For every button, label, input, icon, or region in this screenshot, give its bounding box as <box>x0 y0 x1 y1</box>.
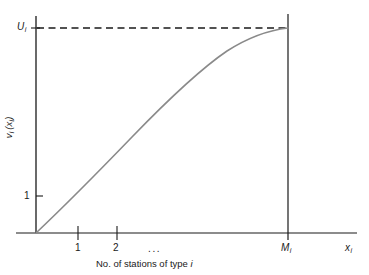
x-axis-caption-subject: i <box>191 258 193 269</box>
y-axis-title-v: v <box>3 134 14 139</box>
x-tick-label-m: Mi <box>281 243 291 254</box>
x-tick-label-2: 2 <box>113 243 119 253</box>
x-axis-caption-text: No. of stations of type <box>96 258 188 269</box>
y-axis-title-v-sub: i <box>7 132 14 134</box>
chart-figure: Ui 1 vi (xi) 1 2 ... Mi xi No. of statio… <box>0 0 369 275</box>
y-axis-title-arg-close: ) <box>3 117 14 120</box>
value-function-curve <box>36 28 288 233</box>
x-tick-label-m-subscript: i <box>289 247 291 254</box>
x-tick-label-1: 1 <box>75 243 81 253</box>
x-axis-caption: No. of stations of type i <box>96 259 193 269</box>
y-axis-cap-subscript: i <box>24 26 26 33</box>
y-tick-label-1: 1 <box>24 191 30 201</box>
chart-plot-area <box>0 0 369 275</box>
y-axis-title-arg-open: (x <box>3 122 14 130</box>
y-axis-title-arg-sub: i <box>7 120 14 122</box>
x-axis-variable-subscript: i <box>350 247 352 254</box>
y-axis-cap-label: Ui <box>17 22 26 33</box>
x-tick-label-ellipsis: ... <box>148 244 161 254</box>
x-axis-variable-label: xi <box>345 243 352 254</box>
y-axis-title: vi (xi) <box>4 104 15 150</box>
